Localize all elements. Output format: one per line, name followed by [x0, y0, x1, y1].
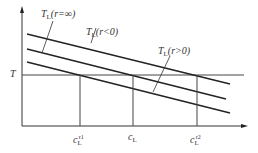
x-tick-cl2: cLr2: [190, 132, 201, 148]
x-tick-cl: cL: [128, 132, 137, 145]
curve-r-gt-0: [27, 62, 230, 113]
label-r-lt-0: TL(r<0): [86, 27, 118, 40]
y-axis-arrow-icon: [20, 6, 24, 13]
y-axis-label: T: [10, 69, 16, 79]
curve-r-lt-0: [27, 34, 230, 84]
curve-r-inf: [27, 49, 226, 99]
label-r-gt-0: TL(r>0): [158, 46, 190, 59]
x-tick-cl1: cLr1: [73, 132, 84, 148]
leader-r-gt-0: [153, 56, 170, 92]
x-axis-arrow-icon: [241, 124, 248, 128]
label-r-inf: TL(r=∞): [41, 9, 75, 22]
leader-r-inf: [42, 21, 53, 53]
